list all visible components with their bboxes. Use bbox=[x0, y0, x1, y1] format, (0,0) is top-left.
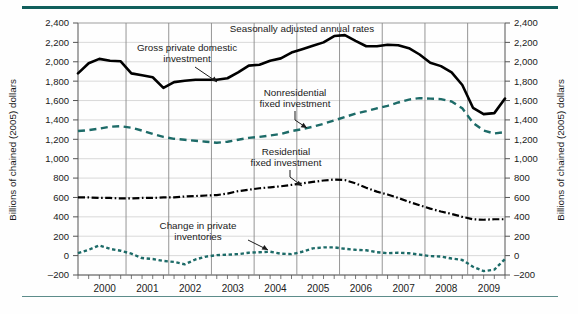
svg-text:0: 0 bbox=[64, 250, 69, 261]
svg-text:2004: 2004 bbox=[264, 283, 287, 294]
chart-svg: –20002004006008001,0001,2001,4001,6001,8… bbox=[0, 0, 578, 314]
svg-text:1,000: 1,000 bbox=[514, 153, 538, 164]
svg-text:Residential: Residential bbox=[262, 146, 310, 157]
svg-text:1,000: 1,000 bbox=[45, 153, 69, 164]
chart-subtitle: Seasonally adjusted annual rates bbox=[230, 23, 374, 34]
svg-text:2009: 2009 bbox=[478, 283, 501, 294]
svg-text:2005: 2005 bbox=[307, 283, 330, 294]
svg-text:1,600: 1,600 bbox=[45, 95, 69, 106]
svg-text:800: 800 bbox=[53, 172, 69, 183]
svg-text:2,400: 2,400 bbox=[514, 17, 538, 28]
svg-text:Gross private domestic: Gross private domestic bbox=[137, 42, 237, 53]
svg-text:1,400: 1,400 bbox=[514, 114, 538, 125]
y-axis-ticks-right bbox=[505, 23, 510, 275]
svg-text:0: 0 bbox=[514, 250, 519, 261]
y-axis-labels-right: –20002004006008001,0001,2001,4001,6001,8… bbox=[514, 17, 538, 280]
svg-text:investment: investment bbox=[163, 53, 211, 64]
svg-text:–200: –200 bbox=[514, 269, 535, 280]
svg-text:200: 200 bbox=[53, 231, 69, 242]
y-axis-title-right: Billions of chained (2005) dollars bbox=[555, 79, 566, 221]
svg-text:1,400: 1,400 bbox=[45, 114, 69, 125]
svg-text:2,200: 2,200 bbox=[514, 37, 538, 48]
svg-text:200: 200 bbox=[514, 231, 530, 242]
svg-text:1,600: 1,600 bbox=[514, 95, 538, 106]
series-line-residential-fixed-investment bbox=[78, 180, 505, 220]
annotation-arrowhead-nonres bbox=[301, 123, 307, 128]
svg-text:2001: 2001 bbox=[136, 283, 159, 294]
svg-text:inventories: inventories bbox=[174, 231, 221, 242]
svg-text:fixed investment: fixed investment bbox=[260, 98, 331, 109]
svg-text:2008: 2008 bbox=[435, 283, 458, 294]
y-axis-labels-left: –20002004006008001,0001,2001,4001,6001,8… bbox=[45, 17, 69, 280]
svg-text:2,400: 2,400 bbox=[45, 17, 69, 28]
y-axis-ticks-left bbox=[73, 23, 78, 275]
svg-text:2007: 2007 bbox=[392, 283, 415, 294]
svg-text:fixed investment: fixed investment bbox=[251, 157, 322, 168]
svg-text:Change in private: Change in private bbox=[160, 220, 237, 231]
svg-text:2003: 2003 bbox=[222, 283, 245, 294]
svg-text:800: 800 bbox=[514, 172, 530, 183]
svg-text:1,800: 1,800 bbox=[514, 76, 538, 87]
svg-text:2006: 2006 bbox=[350, 283, 373, 294]
svg-text:600: 600 bbox=[53, 192, 69, 203]
svg-text:2,000: 2,000 bbox=[45, 56, 69, 67]
svg-text:1,200: 1,200 bbox=[514, 134, 538, 145]
svg-text:400: 400 bbox=[53, 211, 69, 222]
x-axis-labels: 2000200120022003200420052006200720082009 bbox=[94, 283, 501, 294]
svg-text:1,200: 1,200 bbox=[45, 134, 69, 145]
svg-text:–200: –200 bbox=[48, 269, 69, 280]
svg-text:2,200: 2,200 bbox=[45, 37, 69, 48]
series-line-change-in-private-inventories bbox=[78, 245, 505, 271]
svg-text:400: 400 bbox=[514, 211, 530, 222]
svg-text:Nonresidential: Nonresidential bbox=[264, 87, 327, 98]
svg-text:1,800: 1,800 bbox=[45, 76, 69, 87]
y-axis-title-left: Billions of chained (2005) dollars bbox=[7, 79, 18, 221]
annotation-change-in-private-inventories: Change in private inventories bbox=[160, 220, 268, 250]
svg-text:2,000: 2,000 bbox=[514, 56, 538, 67]
svg-text:600: 600 bbox=[514, 192, 530, 203]
annotation-nonresidential-fixed-investment: Nonresidential fixed investment bbox=[260, 87, 331, 128]
svg-text:2000: 2000 bbox=[94, 283, 117, 294]
annotation-residential-fixed-investment: Residential fixed investment bbox=[251, 146, 322, 186]
svg-text:2002: 2002 bbox=[179, 283, 202, 294]
figure-container: –20002004006008001,0001,2001,4001,6001,8… bbox=[0, 0, 578, 314]
x-axis-ticks bbox=[78, 275, 505, 279]
